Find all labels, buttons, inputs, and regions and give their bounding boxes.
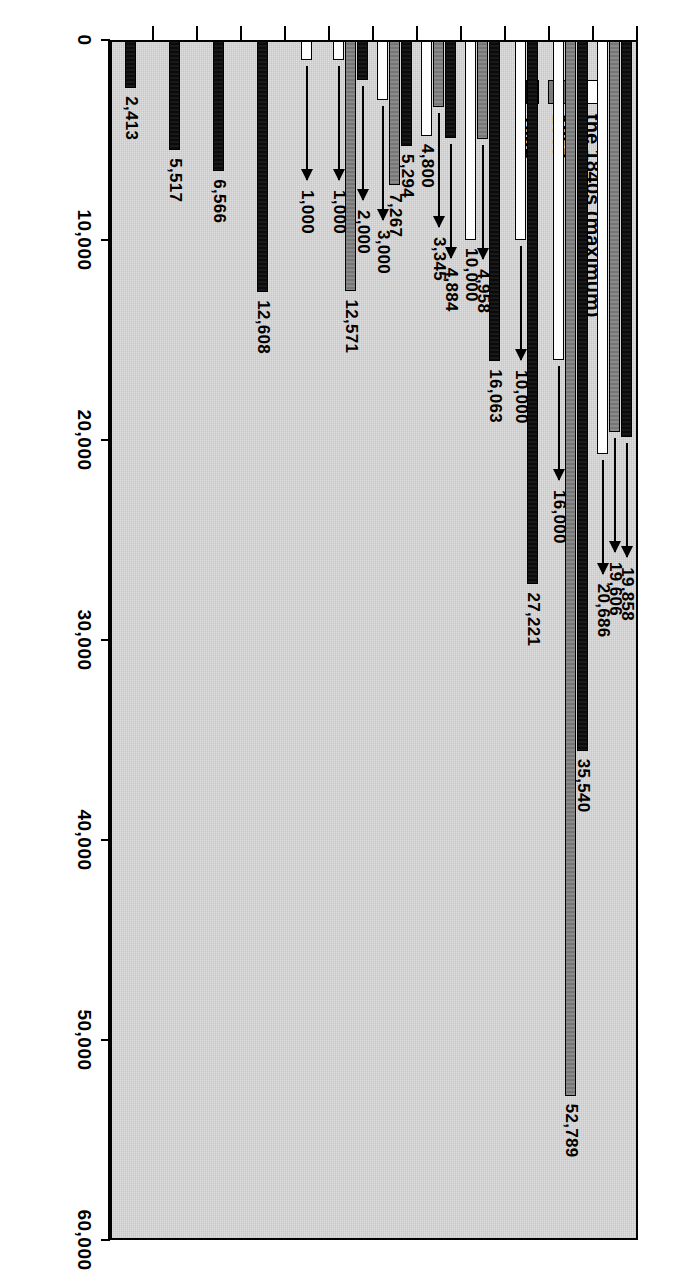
- data-label-1-2: 35,540: [575, 759, 592, 813]
- leader-line-6-0: [338, 66, 340, 180]
- category-tick-6: [372, 26, 374, 40]
- value-tick-label-6: 60,000: [73, 1209, 95, 1270]
- bar-7-0: [302, 40, 313, 60]
- category-tick-5: [416, 26, 418, 40]
- category-tick-7: [328, 26, 330, 40]
- leader-line-2-0: [520, 246, 522, 360]
- category-tick-2: [548, 26, 550, 40]
- value-tick-label-1: 10,000: [73, 209, 95, 270]
- bar-5-0: [378, 40, 389, 100]
- category-axis-line: [108, 40, 638, 42]
- category-tick-0: [636, 26, 638, 40]
- value-tick-3: [101, 639, 110, 641]
- leader-line-4-2: [450, 144, 452, 258]
- bar-1-0: [554, 40, 565, 360]
- category-tick-4: [460, 26, 462, 40]
- category-tick-8: [284, 26, 286, 40]
- value-tick-label-4: 40,000: [73, 809, 95, 870]
- value-tick-1: [101, 239, 110, 241]
- data-label-2-0: 10,000: [513, 370, 530, 424]
- data-label-9-2: 6,566: [211, 179, 228, 223]
- leader-line-4-1: [438, 113, 440, 227]
- bar-6-0: [334, 40, 345, 60]
- bar-6-2: [358, 40, 369, 80]
- chart-stage: the 1840s (maximum)18571869 19,85819,606…: [0, 0, 683, 1270]
- leader-line-6-2: [362, 86, 364, 200]
- bar-1-2: [578, 40, 589, 751]
- bar-0-1: [610, 40, 621, 432]
- data-label-3-2: 16,063: [487, 369, 504, 423]
- bar-4-0: [422, 40, 433, 136]
- data-label-7-0: 1,000: [299, 190, 316, 234]
- leader-line-3-1: [482, 145, 484, 259]
- category-tick-10: [196, 26, 198, 40]
- bar-1-1: [566, 40, 577, 1096]
- data-label-11-2: 2,413: [123, 96, 140, 140]
- data-label-4-1: 3,345: [431, 237, 448, 281]
- bar-5-1: [390, 40, 401, 185]
- bar-6-1: [346, 40, 357, 291]
- value-tick-label-0: 0: [73, 34, 95, 45]
- value-tick-label-5: 50,000: [73, 1009, 95, 1070]
- bar-2-0: [516, 40, 527, 240]
- bar-11-2: [126, 40, 137, 88]
- value-tick-label-3: 30,000: [73, 609, 95, 670]
- bar-3-1: [478, 40, 489, 139]
- value-tick-2: [101, 439, 110, 441]
- bar-0-0: [598, 40, 609, 454]
- data-label-6-2: 2,000: [355, 210, 372, 254]
- data-label-10-2: 5,517: [167, 158, 184, 202]
- data-label-3-0: 10,000: [463, 248, 480, 302]
- bar-8-2: [258, 40, 269, 292]
- category-tick-11: [152, 26, 154, 40]
- leader-line-5-0: [382, 106, 384, 220]
- category-tick-1: [592, 26, 594, 40]
- leader-line-0-1: [614, 438, 616, 552]
- data-label-6-1: 12,571: [343, 299, 360, 353]
- bar-0-2: [622, 40, 633, 437]
- value-tick-label-2: 20,000: [73, 409, 95, 470]
- leader-line-7-0: [306, 66, 308, 180]
- bar-3-0: [466, 40, 477, 240]
- value-tick-5: [101, 1039, 110, 1041]
- leader-line-0-2: [626, 443, 628, 557]
- data-label-5-2: 5,294: [399, 154, 416, 198]
- value-tick-6: [101, 1239, 110, 1241]
- leader-line-1-0: [558, 366, 560, 480]
- data-label-0-0: 20,686: [595, 584, 612, 638]
- bar-9-2: [214, 40, 225, 171]
- bar-10-2: [170, 40, 181, 150]
- bar-2-2: [528, 40, 539, 584]
- data-label-8-2: 12,608: [255, 300, 272, 354]
- data-label-5-0: 3,000: [375, 230, 392, 274]
- data-label-1-1: 52,789: [563, 1104, 580, 1158]
- data-label-2-2: 27,221: [525, 592, 542, 646]
- value-tick-0: [101, 39, 110, 41]
- data-label-1-0: 16,000: [551, 490, 568, 544]
- category-tick-3: [504, 26, 506, 40]
- data-label-6-0: 1,000: [331, 190, 348, 234]
- bar-4-1: [434, 40, 445, 107]
- bar-5-2: [402, 40, 413, 146]
- value-tick-4: [101, 839, 110, 841]
- category-tick-9: [240, 26, 242, 40]
- data-label-4-0: 4,800: [419, 144, 436, 188]
- bar-4-2: [446, 40, 457, 138]
- leader-line-0-0: [602, 460, 604, 574]
